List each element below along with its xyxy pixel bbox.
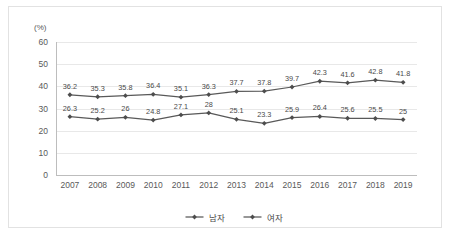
x-tick-label: 2010 xyxy=(144,180,163,190)
line-chart: (%)0102030405060200720082009201020112012… xyxy=(0,0,450,237)
data-point-marker xyxy=(206,111,211,116)
x-tick-label: 2013 xyxy=(227,180,246,190)
data-point-label: 26.3 xyxy=(63,104,77,113)
x-tick-label: 2012 xyxy=(199,180,218,190)
data-point-label: 41.8 xyxy=(396,69,410,78)
data-point-marker xyxy=(179,95,184,100)
data-point-label: 28 xyxy=(205,100,213,109)
data-point-label: 35.8 xyxy=(118,83,132,92)
y-axis-unit-label: (%) xyxy=(34,23,47,32)
y-tick-label: 10 xyxy=(39,148,49,158)
x-tick-label: 2008 xyxy=(88,180,107,190)
data-point-label: 25 xyxy=(399,107,407,116)
data-point-marker xyxy=(317,114,322,119)
x-tick-label: 2014 xyxy=(255,180,274,190)
data-point-label: 25.6 xyxy=(340,105,354,114)
data-point-marker xyxy=(345,116,350,121)
data-point-label: 35.1 xyxy=(174,84,188,93)
data-point-marker xyxy=(67,114,72,119)
y-tick-label: 60 xyxy=(39,37,49,47)
data-point-label: 36.3 xyxy=(202,82,216,91)
data-point-marker xyxy=(179,113,184,118)
data-point-label: 25.2 xyxy=(91,106,105,115)
data-point-label: 25.9 xyxy=(285,105,299,114)
y-tick-label: 40 xyxy=(39,81,49,91)
x-tick-label: 2011 xyxy=(172,180,191,190)
x-tick-label: 2007 xyxy=(60,180,79,190)
data-point-marker xyxy=(67,92,72,97)
data-point-label: 42.3 xyxy=(313,68,327,77)
data-point-marker xyxy=(401,80,406,85)
x-tick-label: 2016 xyxy=(310,180,329,190)
data-point-marker xyxy=(373,116,378,121)
data-point-marker xyxy=(151,118,156,123)
x-tick-label: 2015 xyxy=(283,180,302,190)
data-point-label: 24.8 xyxy=(146,107,160,116)
data-point-label: 36.4 xyxy=(146,81,160,90)
data-point-label: 41.6 xyxy=(340,70,354,79)
legend-marker-2 xyxy=(250,215,255,220)
data-point-marker xyxy=(401,117,406,122)
data-point-marker xyxy=(95,94,100,99)
data-point-label: 36.2 xyxy=(63,82,77,91)
x-tick-label: 2017 xyxy=(338,180,357,190)
data-point-marker xyxy=(123,93,128,98)
data-point-marker xyxy=(345,80,350,85)
x-tick-label: 2018 xyxy=(366,180,385,190)
data-point-marker xyxy=(290,115,295,120)
x-tick-label: 2019 xyxy=(394,180,413,190)
y-tick-label: 20 xyxy=(39,126,49,136)
data-point-marker xyxy=(373,78,378,83)
data-point-marker xyxy=(95,117,100,122)
data-point-marker xyxy=(151,92,156,97)
data-point-marker xyxy=(262,89,267,94)
data-point-label: 37.7 xyxy=(229,78,243,87)
data-point-label: 37.8 xyxy=(257,78,271,87)
data-point-label: 26.4 xyxy=(313,103,327,112)
x-tick-label: 2009 xyxy=(116,180,135,190)
data-point-label: 25.1 xyxy=(229,106,243,115)
data-point-marker xyxy=(290,85,295,90)
data-point-marker xyxy=(234,89,239,94)
y-tick-label: 50 xyxy=(39,59,49,69)
data-point-marker xyxy=(262,121,267,126)
legend-label-1: 남자 xyxy=(209,213,225,223)
data-point-label: 35.3 xyxy=(91,84,105,93)
data-point-label: 23.3 xyxy=(257,110,271,119)
legend-label-2: 여자 xyxy=(267,213,283,223)
y-tick-label: 30 xyxy=(39,104,49,114)
data-point-marker xyxy=(317,79,322,84)
chart-card: (%)0102030405060200720082009201020112012… xyxy=(0,0,450,237)
y-tick-label: 0 xyxy=(43,170,48,180)
data-point-label: 27.1 xyxy=(174,102,188,111)
data-point-marker xyxy=(123,115,128,120)
data-point-marker xyxy=(206,92,211,97)
data-point-label: 39.7 xyxy=(285,74,299,83)
legend-marker-1 xyxy=(192,215,197,220)
data-point-label: 26 xyxy=(121,104,129,113)
data-point-marker xyxy=(234,117,239,122)
data-point-label: 25.5 xyxy=(368,105,382,114)
data-point-label: 42.8 xyxy=(368,67,382,76)
